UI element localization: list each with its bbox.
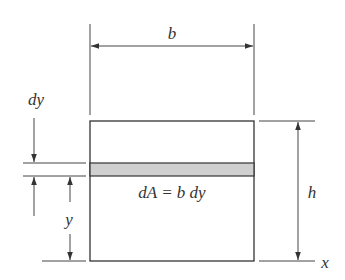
- area-strip: [90, 163, 254, 176]
- width-dimension: b: [90, 24, 254, 115]
- strip-thickness-dimension: dy: [23, 90, 86, 216]
- height-label: h: [308, 183, 317, 202]
- strip-thickness-label: dy: [28, 90, 45, 109]
- rectangular-section-diagram: b dA = b dy h x dy y: [0, 0, 345, 280]
- width-label: b: [168, 24, 177, 43]
- strip-distance-label: y: [63, 210, 73, 229]
- x-axis-label: x: [320, 253, 329, 272]
- strip-distance-dimension: y: [42, 177, 86, 261]
- height-dimension: h: [259, 121, 316, 261]
- area-element-label: dA = b dy: [138, 183, 206, 202]
